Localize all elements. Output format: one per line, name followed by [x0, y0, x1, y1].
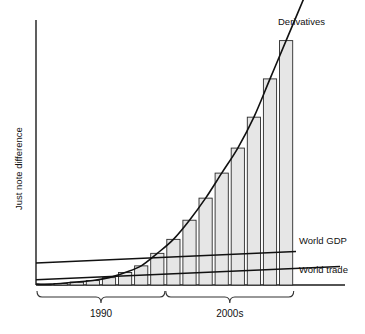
bar [231, 148, 244, 285]
bar [280, 41, 293, 285]
bar [247, 117, 260, 285]
world-trade-label: World trade [299, 264, 348, 275]
bar [183, 220, 196, 285]
bar [215, 173, 228, 285]
bar [167, 239, 180, 285]
period-label-1990: 1990 [90, 308, 113, 319]
derivatives-label: Derivatives [278, 16, 325, 27]
bar-group [38, 41, 293, 285]
period-brace-2000s [166, 291, 294, 303]
y-axis-title: Just note difference [13, 127, 24, 210]
bar [263, 79, 276, 285]
world-gdp-label: World GDP [299, 235, 347, 246]
growth-comparison-chart: Derivatives World GDP World trade Just n… [0, 0, 365, 334]
period-brace-1990 [37, 291, 165, 303]
period-label-2000s: 2000s [216, 308, 243, 319]
chart-container: Derivatives World GDP World trade Just n… [0, 0, 365, 334]
